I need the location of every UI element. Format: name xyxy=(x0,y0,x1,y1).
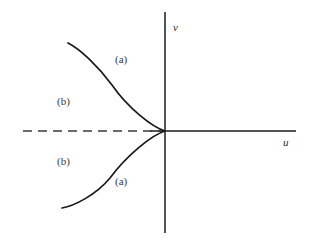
region-label-b-upper: (b) xyxy=(57,96,70,107)
diagram-canvas xyxy=(0,0,311,242)
region-label-a-upper: (a) xyxy=(115,54,127,65)
u-axis-label: u xyxy=(283,137,289,148)
cusp-lower-branch xyxy=(62,131,165,208)
region-label-a-lower: (a) xyxy=(115,176,127,187)
region-label-b-lower: (b) xyxy=(57,156,70,167)
v-axis-label: v xyxy=(173,22,178,33)
cusp-bifurcation-figure: v u (a) (b) (b) (a) xyxy=(0,0,311,242)
